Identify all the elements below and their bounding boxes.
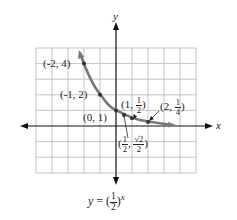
point-label-neg1-2: (-1, 2) — [60, 89, 88, 100]
eq-exponent: x — [121, 192, 125, 202]
y-label-text: y — [113, 10, 118, 22]
x-axis-left-arrow-icon — [20, 123, 28, 129]
point-1-half — [130, 116, 134, 120]
label-prefix: (1, — [121, 98, 136, 110]
close-paren: ) — [144, 137, 148, 149]
numerator: 1 — [110, 192, 117, 203]
point-neg1-2 — [98, 93, 102, 97]
curve-arrow-icon — [78, 50, 84, 59]
denominator: 2 — [110, 203, 117, 213]
x-label-text: x — [216, 119, 221, 131]
eq-equals: = ( — [93, 194, 110, 208]
x-axis-label: x — [216, 120, 221, 131]
point-label-neg2-4: (-2, 4) — [43, 58, 71, 69]
fraction-y: √22 — [133, 135, 144, 153]
point-label-0-1: (0, 1) — [83, 112, 107, 123]
eq-fraction: 12 — [110, 192, 117, 212]
y-axis-down-arrow-icon — [113, 177, 119, 185]
y-axis-up-arrow-icon — [113, 22, 119, 30]
point-neg2-4 — [82, 62, 86, 66]
graph-canvas — [0, 0, 237, 220]
point-0-1 — [114, 108, 118, 112]
equation-label: y = (12)x — [88, 192, 125, 212]
y-axis-label: y — [113, 11, 118, 22]
x-axis-right-arrow-icon — [205, 123, 213, 129]
label-prefix: (2, — [160, 100, 175, 112]
label-suffix: ) — [142, 98, 146, 110]
denominator: 2 — [133, 145, 144, 154]
point-label-2-quarter: (2, 14) — [160, 98, 185, 116]
point-label-1-half: (1, 12) — [121, 96, 146, 114]
curve-right-arrow-icon — [168, 122, 176, 128]
point-label-half-sqrt2: (12, √22) — [118, 135, 148, 153]
